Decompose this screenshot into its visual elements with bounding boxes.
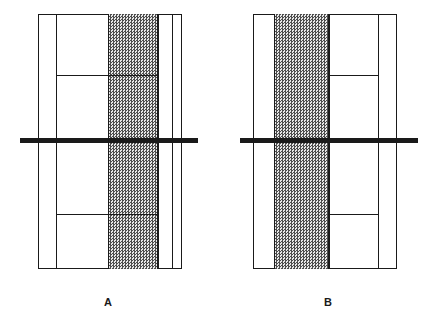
hline-b-upper <box>329 75 378 76</box>
thick-bar-b <box>240 138 418 143</box>
hline-b-lower <box>329 214 378 215</box>
shaded-tick-a-lower <box>108 214 158 215</box>
shaded-tick-a-upper <box>108 75 158 76</box>
figure-canvas: A B <box>0 0 433 330</box>
panel-a-label: A <box>88 296 128 309</box>
panel-b-label: B <box>308 296 348 309</box>
thick-bar-a <box>20 138 198 143</box>
